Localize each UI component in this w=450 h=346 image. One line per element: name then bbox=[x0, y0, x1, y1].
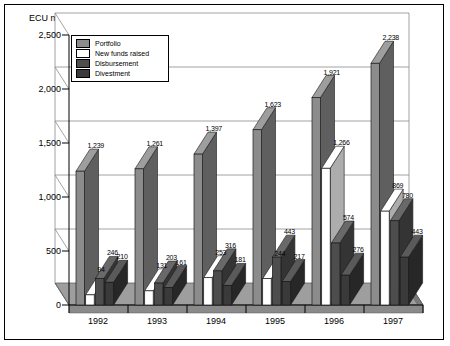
legend-item-portfolio: Portfolio bbox=[76, 39, 164, 48]
bar-value-label-portfolio-1993: 1,261 bbox=[147, 140, 164, 147]
bar-new-funds-raised-1995[interactable] bbox=[263, 279, 272, 305]
bar-value-label-new-funds-raised-1996: 1,266 bbox=[333, 139, 350, 146]
bar-value-label-new-funds-raised-1997: 869 bbox=[392, 182, 403, 189]
legend-swatch-divestment bbox=[76, 69, 90, 78]
bar-portfolio-1995[interactable] bbox=[253, 130, 262, 305]
bar-portfolio-1993[interactable] bbox=[135, 169, 144, 305]
bar-value-label-disbursement-1994: 316 bbox=[225, 242, 236, 249]
bar-value-label-divestment-1996: 276 bbox=[353, 246, 364, 253]
bar-value-label-new-funds-raised-1994: 253 bbox=[215, 249, 226, 256]
legend-swatch-portfolio bbox=[76, 39, 90, 48]
bar-value-label-divestment-1993: 161 bbox=[176, 259, 187, 266]
bar-value-label-new-funds-raised-1995: 244 bbox=[274, 250, 285, 257]
legend-item-disbursement: Disbursement bbox=[76, 59, 164, 68]
legend-label-portfolio: Portfolio bbox=[95, 40, 121, 48]
bar-value-label-disbursement-1995: 443 bbox=[284, 228, 295, 235]
bar-new-funds-raised-1997[interactable] bbox=[381, 211, 390, 305]
bar-divestment-1993[interactable] bbox=[164, 288, 173, 305]
bar-divestment-1995[interactable] bbox=[282, 282, 291, 305]
legend-label-disbursement: Disbursement bbox=[95, 60, 138, 68]
bar-value-label-disbursement-1997: 780 bbox=[402, 192, 413, 199]
bar-value-label-disbursement-1996: 574 bbox=[343, 214, 354, 221]
bar-value-label-divestment-1994: 181 bbox=[235, 256, 246, 263]
bar-value-label-new-funds-raised-1992: 94 bbox=[97, 266, 104, 273]
legend-swatch-new-funds-raised bbox=[76, 49, 90, 58]
bar-value-label-portfolio-1997: 2,238 bbox=[383, 34, 400, 41]
legend-item-new-funds-raised: New funds raised bbox=[76, 49, 164, 58]
x-tick-1993: 1993 bbox=[135, 316, 179, 326]
bar-value-label-portfolio-1995: 1,623 bbox=[265, 101, 282, 108]
bar-portfolio-1996[interactable] bbox=[312, 98, 321, 305]
bar-disbursement-1996[interactable] bbox=[331, 243, 340, 305]
x-tick-1994: 1994 bbox=[194, 316, 238, 326]
legend-label-divestment: Divestment bbox=[95, 70, 130, 78]
bar-disbursement-1992[interactable] bbox=[95, 278, 104, 305]
bar-value-label-divestment-1992: 210 bbox=[117, 253, 128, 260]
bar-value-label-divestment-1995: 217 bbox=[294, 253, 305, 260]
bar-divestment-1992[interactable] bbox=[105, 282, 114, 305]
chart-legend: Portfolio New funds raised Disbursement … bbox=[71, 35, 169, 82]
bar-new-funds-raised-1996[interactable] bbox=[322, 168, 331, 305]
bar-disbursement-1995[interactable] bbox=[272, 257, 281, 305]
bar-disbursement-1994[interactable] bbox=[213, 271, 222, 305]
bar-new-funds-raised-1992[interactable] bbox=[86, 295, 95, 305]
bar-value-label-portfolio-1994: 1,397 bbox=[206, 125, 223, 132]
bar-divestment-1996[interactable] bbox=[341, 275, 350, 305]
bar-value-label-portfolio-1996: 1,921 bbox=[324, 69, 341, 76]
bar-value-label-portfolio-1992: 1,239 bbox=[88, 142, 105, 149]
bar-disbursement-1997[interactable] bbox=[390, 221, 399, 305]
bar-portfolio-1992[interactable] bbox=[76, 171, 85, 305]
x-tick-1992: 1992 bbox=[76, 316, 120, 326]
bar-divestment-1997[interactable] bbox=[400, 257, 409, 305]
bar-new-funds-raised-1994[interactable] bbox=[204, 278, 213, 305]
legend-swatch-disbursement bbox=[76, 59, 90, 68]
x-tick-1995: 1995 bbox=[253, 316, 297, 326]
bar-value-label-new-funds-raised-1993: 131 bbox=[156, 262, 167, 269]
bar-divestment-1994[interactable] bbox=[223, 285, 232, 305]
bar-portfolio-1994[interactable] bbox=[194, 154, 203, 305]
x-tick-1997: 1997 bbox=[371, 316, 415, 326]
bar-portfolio-1997[interactable] bbox=[371, 63, 380, 305]
chart-frame: ECU million bbox=[4, 4, 444, 340]
x-tick-1996: 1996 bbox=[312, 316, 356, 326]
bar-new-funds-raised-1993[interactable] bbox=[145, 291, 154, 305]
bar-value-label-divestment-1997: 443 bbox=[412, 228, 423, 235]
legend-label-new-funds-raised: New funds raised bbox=[95, 50, 149, 58]
bar-disbursement-1993[interactable] bbox=[154, 283, 163, 305]
legend-item-divestment: Divestment bbox=[76, 69, 164, 78]
